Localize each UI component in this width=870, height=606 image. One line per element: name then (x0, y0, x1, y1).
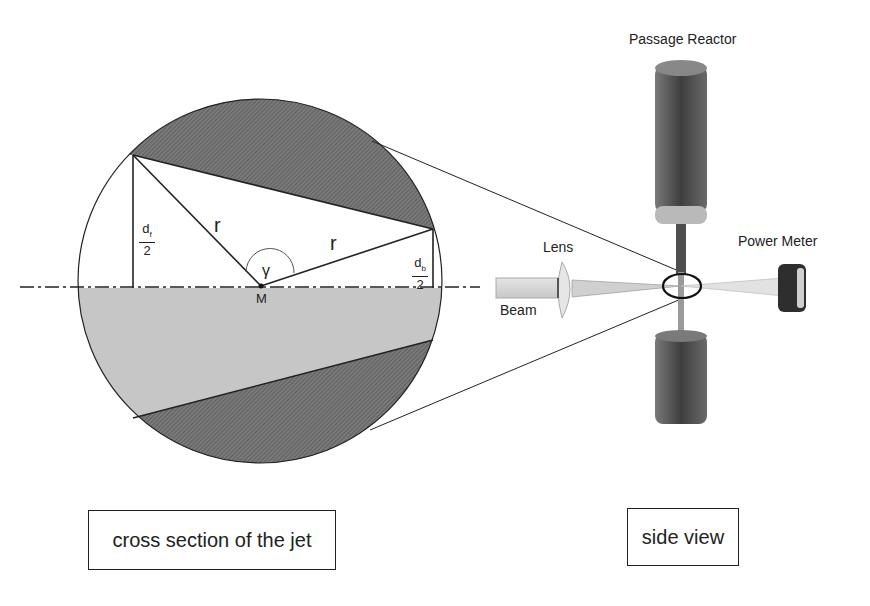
lens (558, 262, 570, 318)
passage-reactor (655, 64, 707, 214)
label-r-left: r (214, 214, 221, 237)
collector (655, 334, 707, 424)
label-passage-reactor: Passage Reactor (629, 31, 736, 47)
label-db-over-2: db 2 (412, 256, 428, 293)
caption-cross-section: cross section of the jet (88, 510, 336, 570)
label-gamma: γ (262, 262, 270, 280)
label-power-meter: Power Meter (738, 233, 817, 249)
beam (496, 278, 558, 298)
label-lens: Lens (543, 239, 573, 255)
label-beam: Beam (500, 302, 537, 318)
label-r-right: r (330, 232, 337, 255)
liquid-jet (678, 272, 684, 332)
radius-right (261, 229, 433, 286)
caption-side-view: side view (627, 508, 739, 566)
label-center-m: M (256, 291, 267, 306)
upper-hatched-segment (70, 90, 450, 230)
gamma-arc (246, 248, 294, 273)
center-point (259, 284, 264, 289)
label-df-over-2: df 2 (139, 222, 155, 259)
nozzle (676, 224, 686, 274)
